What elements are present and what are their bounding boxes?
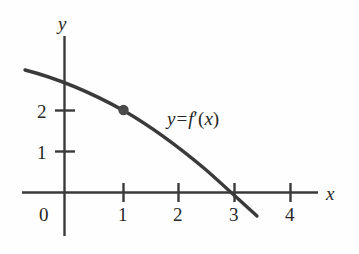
y-tick-label-2: 2 <box>37 102 47 121</box>
x-tick-label-1: 1 <box>118 205 128 224</box>
y-tick-label-1: 1 <box>37 143 47 162</box>
x-tick-label-2: 2 <box>173 205 183 224</box>
derivative-curve <box>25 70 257 216</box>
curve-label-close-paren: ) <box>213 108 219 129</box>
marked-point <box>118 105 128 115</box>
curve-label-variable: x <box>204 108 212 129</box>
x-tick-label-4: 4 <box>285 205 295 224</box>
x-tick-label-0: 0 <box>39 205 49 224</box>
curve-equation-label: y=f′(x) <box>167 109 219 128</box>
x-tick-label-3: 3 <box>229 205 239 224</box>
graph-figure: 0 1 2 3 4 1 2 x y y=f′(x) <box>0 0 359 254</box>
x-axis-label: x <box>326 184 334 203</box>
y-axis-label: y <box>58 14 66 33</box>
curve-label-equals: = <box>175 108 188 129</box>
